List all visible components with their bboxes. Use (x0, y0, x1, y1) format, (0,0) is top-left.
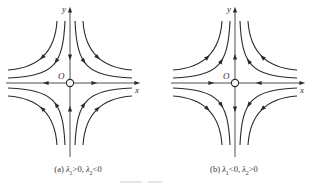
trajectory-curve (248, 21, 297, 70)
phase-portrait-b: xyO (156, 0, 312, 186)
caption-a: (a) λ1>0, λ2<0 (0, 164, 156, 176)
x-flow-arrow-icon (91, 81, 97, 85)
y-flow-arrow-icon (233, 54, 237, 60)
phase-portrait-a: xyO (0, 0, 156, 186)
y-axis-label: y (61, 4, 66, 14)
caption-b: (b) λ1<0, λ2>0 (156, 164, 312, 176)
trajectory-curve (173, 96, 222, 145)
x-flow-arrow-icon (256, 81, 262, 85)
origin-label: O (58, 71, 65, 81)
caption-a-prefix: (a) (54, 164, 63, 174)
origin-label: O (223, 71, 230, 81)
y-flow-arrow-icon (233, 106, 237, 112)
y-flow-arrow-icon (68, 106, 72, 112)
trajectory-curve (248, 96, 297, 145)
y-axis-arrow-icon (233, 7, 237, 13)
cropped-figure-caption (120, 181, 190, 185)
trajectory-curve (83, 21, 132, 70)
lambda2-cond: >0 (249, 164, 258, 174)
x-axis-label: x (134, 85, 139, 95)
x-flow-arrow-icon (43, 81, 49, 85)
saddle-point (231, 79, 238, 86)
lambda1-cond: >0, (73, 164, 84, 174)
trajectory-curve (173, 21, 222, 70)
y-axis-arrow-icon (68, 7, 72, 13)
caption-b-prefix: (b) (210, 164, 220, 174)
y-axis-label: y (226, 4, 231, 14)
x-axis-label: x (299, 85, 304, 95)
trajectory-curve (8, 21, 57, 70)
panel-b: xyO (b) λ1<0, λ2>0 (156, 0, 312, 186)
panel-a: xyO (a) λ1>0, λ2<0 (0, 0, 156, 186)
y-flow-arrow-icon (68, 54, 72, 60)
lambda1-cond: <0, (229, 164, 240, 174)
trajectory-curve (8, 96, 57, 145)
saddle-point (66, 79, 73, 86)
trajectory-curve (83, 96, 132, 145)
lambda2-cond: <0 (93, 164, 102, 174)
x-flow-arrow-icon (208, 81, 214, 85)
